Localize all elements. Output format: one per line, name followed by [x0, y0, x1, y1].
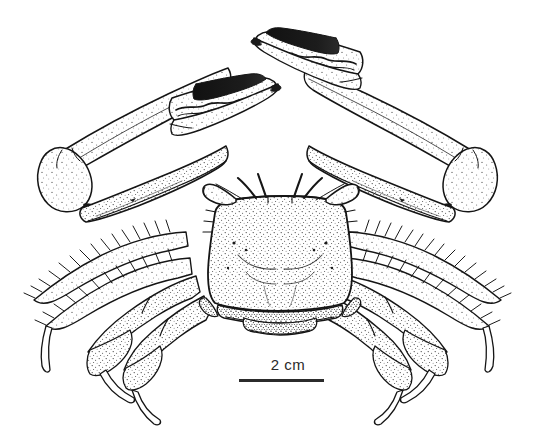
walking-legs-left [24, 220, 210, 425]
scale-bar-label: 2 cm [243, 356, 333, 373]
carapace [203, 196, 358, 311]
cheliped-right [251, 28, 497, 222]
crab-illustration-figure: 2 cm [0, 0, 535, 436]
walking-legs-right [325, 220, 511, 425]
scale-bar-line [239, 379, 324, 382]
